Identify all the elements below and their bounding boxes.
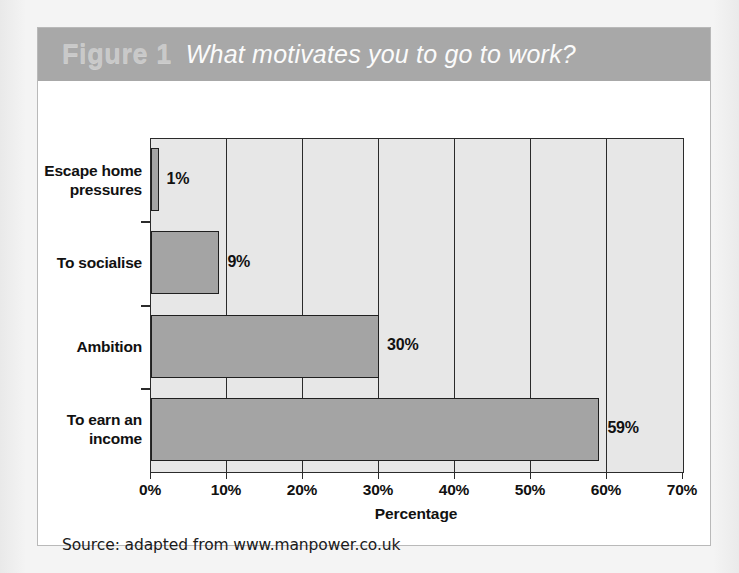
- x-tick-label-70: 70%: [652, 481, 712, 499]
- y-tick-1: [141, 221, 150, 223]
- x-tick-0: [150, 472, 151, 479]
- chart-body: 0%10%20%30%40%50%60%70% 1%9%30%59% Escap…: [38, 81, 710, 545]
- bar-to-earn-an-income[interactable]: [151, 398, 599, 461]
- x-tick-10: [226, 472, 227, 479]
- category-label-3: Ambition: [34, 337, 142, 356]
- x-tick-label-20: 20%: [272, 481, 332, 499]
- y-tick-3: [141, 388, 150, 390]
- figure-card: Figure 1What motivates you to go to work…: [38, 28, 710, 545]
- x-tick-60: [606, 472, 607, 479]
- category-label-2: To socialise: [34, 253, 142, 272]
- bar-value-label-2: 9%: [227, 253, 250, 271]
- bar-escape-home-pressures[interactable]: [151, 148, 159, 211]
- category-label-4: To earn anincome: [34, 410, 142, 448]
- x-tick-40: [454, 472, 455, 479]
- x-tick-20: [302, 472, 303, 479]
- figure-title-text: What motivates you to go to work?: [186, 40, 576, 68]
- category-label-1: Escape homepressures: [34, 161, 142, 199]
- category-labels: Escape homepressuresTo socialiseAmbition…: [38, 81, 142, 545]
- bar-value-label-4: 59%: [607, 419, 638, 437]
- x-tick-50: [530, 472, 531, 479]
- scanned-page: Figure 1What motivates you to go to work…: [0, 0, 739, 573]
- x-tick-label-50: 50%: [500, 481, 560, 499]
- figure-title-banner: Figure 1What motivates you to go to work…: [38, 28, 710, 81]
- x-tick-label-30: 30%: [348, 481, 408, 499]
- source-note: Source: adapted from www.manpower.co.uk: [62, 536, 400, 554]
- x-tick-label-60: 60%: [576, 481, 636, 499]
- bar-to-socialise[interactable]: [151, 231, 219, 294]
- bar-value-label-1: 1%: [167, 170, 190, 188]
- x-tick-30: [378, 472, 379, 479]
- banner-text-row: Figure 1What motivates you to go to work…: [62, 37, 576, 75]
- x-tick-label-40: 40%: [424, 481, 484, 499]
- x-tick-label-10: 10%: [196, 481, 256, 499]
- x-tick-70: [682, 472, 683, 479]
- bar-value-label-3: 30%: [387, 336, 418, 354]
- y-tick-2: [141, 305, 150, 307]
- figure-number-label: Figure 1: [62, 39, 172, 69]
- x-axis-title: Percentage: [150, 505, 682, 523]
- bar-ambition[interactable]: [151, 315, 379, 378]
